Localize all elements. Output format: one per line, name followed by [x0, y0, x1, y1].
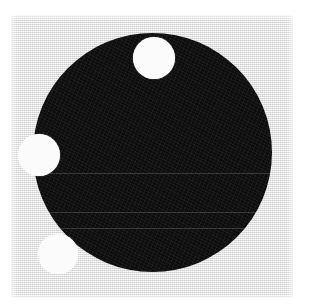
- white-dot-left: [18, 134, 60, 176]
- white-dot-bottom-left: [38, 234, 78, 274]
- figure-canvas: [0, 0, 310, 306]
- scan-artifact-line: [33, 173, 272, 174]
- scan-artifact-line: [33, 212, 272, 213]
- white-dot-top: [133, 37, 175, 79]
- scan-artifact-line: [33, 228, 272, 229]
